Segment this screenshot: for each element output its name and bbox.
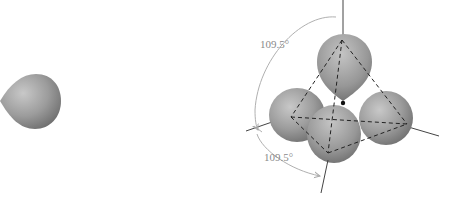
sp3-orbital-diagram: 109.5° 109.5° [0, 0, 454, 204]
angle-label-bottom: 109.5° [264, 151, 293, 163]
tetrahedral-orbitals: 109.5° 109.5° [246, 0, 439, 193]
orbital-lobe-right [359, 91, 413, 145]
single-orbital-lobe [0, 74, 61, 129]
axis-bottom [321, 160, 328, 193]
nucleus-dot [341, 101, 345, 105]
angle-label-top: 109.5° [260, 38, 289, 50]
orbital-lobe-front [307, 105, 361, 163]
orbital-lobe-icon [0, 74, 61, 129]
